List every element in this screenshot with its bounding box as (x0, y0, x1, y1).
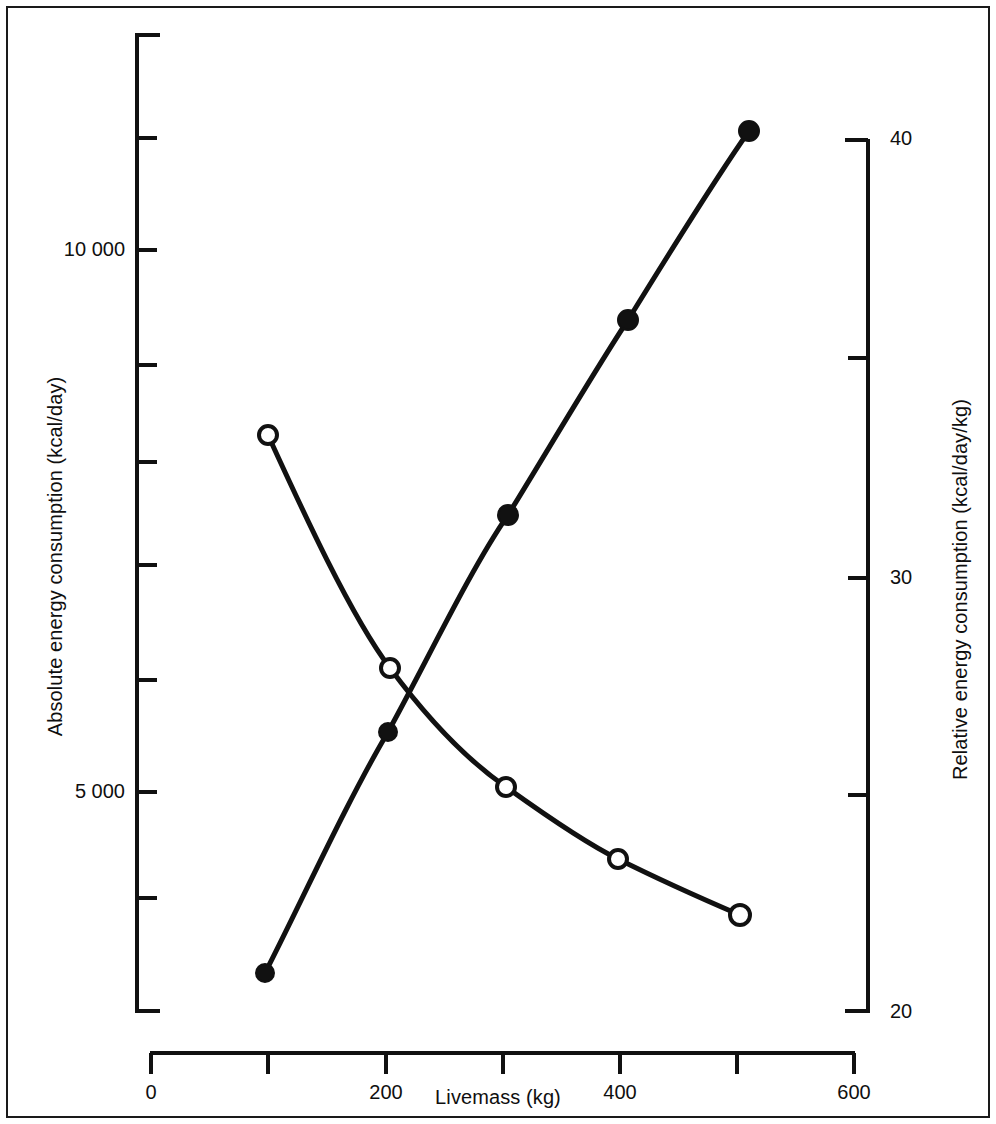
x-axis-ticks (151, 1053, 854, 1074)
figure-container: Absolute energy consumption (kcal/day) R… (0, 0, 996, 1124)
y-axis-left (137, 33, 160, 1013)
x-axis-tick-label-0: 0 (111, 1081, 191, 1104)
data-point-filled (498, 505, 518, 525)
data-point-filled (379, 723, 397, 741)
series-absolute-markers (256, 121, 759, 982)
y-axis-right-tick-label-20: 20 (890, 1000, 960, 1023)
data-point-open (609, 850, 627, 868)
y-axis-left-tick-label-5000: 5 000 (0, 780, 125, 803)
y-axis-right-ticks (848, 358, 868, 795)
data-point-filled (256, 964, 274, 982)
y-axis-left-title: Absolute energy consumption (kcal/day) (44, 297, 67, 817)
data-point-filled (739, 121, 759, 141)
x-axis-tick-label-200: 200 (346, 1081, 426, 1104)
y-axis-left-ticks (137, 138, 157, 898)
y-axis-left-tick-label-10000: 10 000 (0, 238, 125, 261)
data-point-open (381, 659, 399, 677)
data-point-open (497, 778, 515, 796)
series-relative-markers (259, 426, 750, 925)
data-point-filled (618, 310, 638, 330)
x-axis-tick-label-600: 600 (814, 1081, 894, 1104)
y-axis-right-tick-label-40: 40 (890, 127, 960, 150)
series-absolute-line (265, 131, 749, 973)
y-axis-right-title: Relative energy consumption (kcal/day/kg… (949, 330, 972, 850)
chart-plot-area (0, 0, 996, 1124)
data-point-open (730, 905, 750, 925)
x-axis-tick-label-400: 400 (580, 1081, 660, 1104)
y-axis-right-tick-label-30: 30 (890, 566, 960, 589)
data-point-open (259, 426, 277, 444)
